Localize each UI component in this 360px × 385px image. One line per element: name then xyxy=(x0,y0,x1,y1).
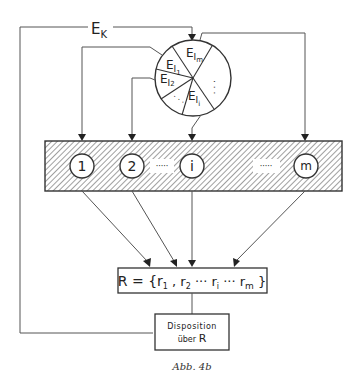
unit-label-1: 1 xyxy=(78,158,87,174)
arrow-down-icon xyxy=(301,134,309,141)
arrow-down-icon xyxy=(143,258,151,267)
arrow-down-icon xyxy=(128,134,136,141)
arrow-down-icon xyxy=(188,134,196,141)
disposition-line-1: Disposition xyxy=(167,322,217,331)
result-set-label: R = {r1 , r2 ··· ri ··· rm } xyxy=(118,273,266,291)
disposition-box xyxy=(155,314,229,350)
unit-ellipsis-2: ····· xyxy=(260,162,273,171)
down-arrows xyxy=(78,134,309,141)
feedback-label: EK xyxy=(91,20,107,40)
unit-label-2: 2 xyxy=(128,158,137,174)
arrow-down-icon xyxy=(233,258,240,267)
arrow-down-icon xyxy=(78,134,86,141)
unit-ellipsis-1: ····· xyxy=(156,162,169,171)
arrow-down-icon xyxy=(188,260,196,267)
unit-label-m: m xyxy=(300,159,312,173)
pie-ellipsis-right: · · · xyxy=(209,80,219,94)
figure-caption: Abb. 4b xyxy=(171,361,211,372)
result-connectors xyxy=(82,191,305,261)
arrow-down-icon xyxy=(170,259,177,267)
unit-label-i: i xyxy=(190,158,194,174)
diagram-canvas: EK · · · · · · EI1 EI2 EIi EIm 1 2 xyxy=(0,0,360,385)
